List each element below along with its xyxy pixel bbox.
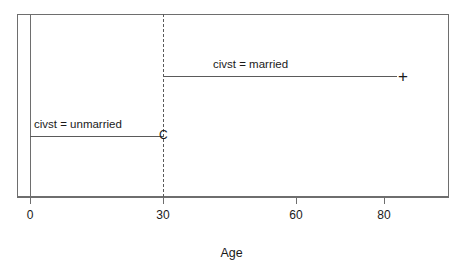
lexis-episode-chart: civst = married + civst = unmarried C 0 … <box>0 0 463 278</box>
x-tick-label-0: 0 <box>27 208 34 222</box>
x-tick-30 <box>163 197 164 204</box>
x-axis-title-container: Age <box>0 246 463 260</box>
x-tick-label-80: 80 <box>377 208 390 222</box>
x-tick-60 <box>296 197 297 204</box>
x-tick-label-60: 60 <box>289 208 302 222</box>
censored-c-marker: C <box>159 129 168 142</box>
unmarried-spell-line <box>30 136 163 137</box>
event-plus-marker: + <box>398 68 408 85</box>
unmarried-spell-label: civst = unmarried <box>34 118 122 131</box>
married-spell-label: civst = married <box>213 58 288 71</box>
age-30-dashed-reference-line <box>163 14 164 197</box>
x-tick-80 <box>384 197 385 204</box>
age-zero-reference-line <box>30 14 31 197</box>
x-tick-0 <box>30 197 31 204</box>
plot-frame <box>17 14 449 197</box>
married-spell-line <box>163 76 397 77</box>
x-axis-title: Age <box>220 246 242 260</box>
x-tick-label-30: 30 <box>156 208 169 222</box>
